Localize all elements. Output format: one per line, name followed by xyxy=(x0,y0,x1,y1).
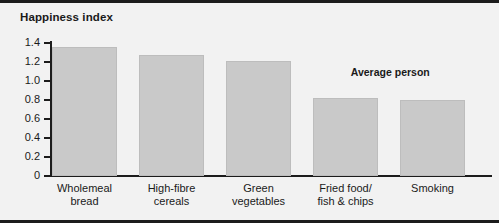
y-axis-tick xyxy=(44,42,51,44)
y-axis-tick xyxy=(44,80,51,82)
category-label-line: cereals xyxy=(127,195,216,208)
figure-bottom-rule xyxy=(0,220,499,223)
y-axis-tick-label: 0.4 xyxy=(0,131,40,143)
category-label-line: vegetables xyxy=(214,195,303,208)
y-axis-tick-label: 0.8 xyxy=(0,93,40,105)
average-person-annotation: Average person xyxy=(351,66,430,78)
x-axis-category-label: Wholemealbread xyxy=(40,182,129,208)
y-axis-tick-label: 1.4 xyxy=(0,36,40,48)
category-label-line: Wholemeal xyxy=(40,182,129,195)
category-label-line: Green xyxy=(214,182,303,195)
chart-title: Happiness index xyxy=(20,11,113,23)
bar xyxy=(139,55,204,176)
x-axis-category-label: Greenvegetables xyxy=(214,182,303,208)
category-label-line: Fried food/ xyxy=(301,182,390,195)
figure-top-rule xyxy=(0,0,499,3)
bar xyxy=(400,100,465,176)
category-label-line: High-fibre xyxy=(127,182,216,195)
happiness-index-bar-chart: Happiness index 00.20.40.60.81.01.21.4 W… xyxy=(0,0,499,223)
y-axis-tick xyxy=(44,175,51,177)
bar xyxy=(226,61,291,176)
category-label-line: Smoking xyxy=(388,182,477,195)
category-label-line: bread xyxy=(40,195,129,208)
x-axis-category-label: Smoking xyxy=(388,182,477,195)
y-axis-tick xyxy=(44,156,51,158)
category-label-line: fish & chips xyxy=(301,195,390,208)
y-axis-tick-label: 0.6 xyxy=(0,112,40,124)
y-axis-tick xyxy=(44,118,51,120)
y-axis-tick-label: 1.2 xyxy=(0,55,40,67)
y-axis-tick xyxy=(44,61,51,63)
bar xyxy=(52,47,117,176)
x-axis-category-label: High-fibrecereals xyxy=(127,182,216,208)
y-axis-tick xyxy=(44,99,51,101)
x-axis-category-label: Fried food/fish & chips xyxy=(301,182,390,208)
y-axis-tick xyxy=(44,137,51,139)
y-axis-tick-label: 0 xyxy=(0,169,40,181)
bar xyxy=(313,98,378,176)
y-axis-tick-label: 0.2 xyxy=(0,150,40,162)
y-axis-tick-label: 1.0 xyxy=(0,74,40,86)
